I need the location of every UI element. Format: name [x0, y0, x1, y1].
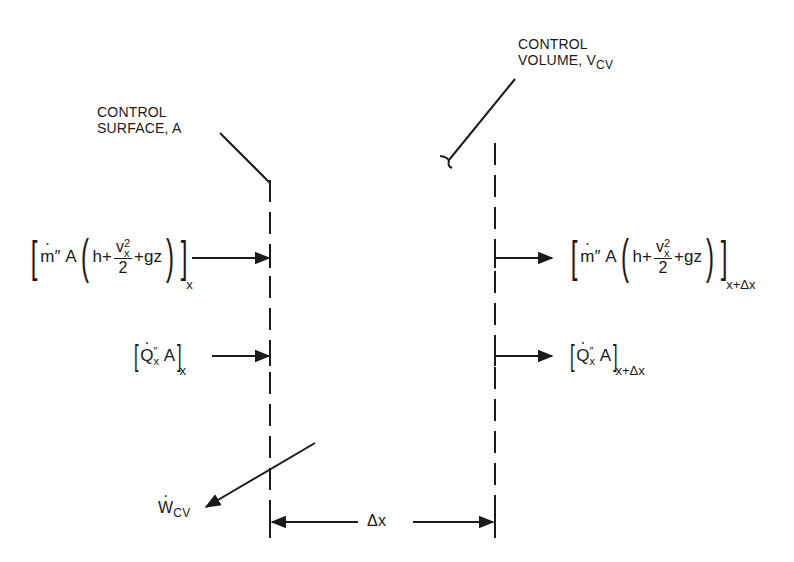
close-bracket: ]: [721, 235, 728, 279]
open-paren: (: [81, 233, 89, 281]
control-volume-line2: VOLUME, VCV: [518, 52, 613, 73]
open-bracket: [: [134, 341, 139, 371]
work-arrow: [206, 443, 315, 507]
heat-flux-symbol: Q: [140, 346, 153, 366]
kinetic-numerator: v2x: [654, 238, 672, 259]
work-label: WCV: [158, 500, 190, 521]
heat-flux-out: [ Q″x A ] x+Δx: [568, 338, 645, 374]
area-symbol: A: [600, 346, 611, 366]
velocity-symbol: v: [656, 238, 664, 255]
heat-sub: x: [590, 356, 596, 366]
control-volume-subscript: CV: [596, 58, 613, 72]
heat-flux-symbol: Q: [576, 346, 589, 366]
open-paren: (: [621, 233, 629, 281]
open-bracket: [: [31, 235, 38, 279]
control-surface-line2: SURFACE, A: [97, 120, 181, 136]
location-subscript: x+Δx: [616, 363, 645, 378]
area-symbol: A: [164, 346, 175, 366]
kinetic-numerator: v2x: [114, 238, 132, 259]
area-symbol: A: [605, 247, 616, 267]
close-bracket: ]: [177, 341, 182, 371]
delta-x-label: Δx: [367, 513, 386, 529]
control-surface-leader: [220, 133, 270, 183]
control-volume-text: VOLUME, V: [518, 52, 596, 68]
control-surface-line1: CONTROL: [97, 104, 181, 120]
double-prime: ″: [54, 247, 60, 267]
heat-sub: x: [154, 356, 160, 366]
control-volume-line1: CONTROL: [518, 36, 613, 52]
velocity-symbol: v: [116, 238, 124, 255]
enthalpy-term: h+: [633, 247, 652, 267]
close-bracket: ]: [613, 341, 618, 371]
kinetic-denominator: 2: [659, 259, 668, 276]
velocity-sub: x: [664, 248, 670, 258]
mass-flux-symbol: m: [40, 247, 54, 267]
kinetic-fraction: v2x 2: [114, 238, 132, 276]
potential-term: +gz: [674, 247, 702, 267]
control-volume-leader: [449, 79, 515, 160]
location-subscript: x+Δx: [726, 277, 755, 292]
enthalpy-flux-out: [ m″ A ( h+ v2x 2 +gz ) ] x+Δx: [568, 226, 755, 288]
kinetic-fraction: v2x 2: [654, 238, 672, 276]
area-symbol: A: [65, 247, 76, 267]
open-bracket: [: [571, 235, 578, 279]
work-subscript: CV: [173, 506, 190, 520]
heat-flux-in: [ Q″x A ] x: [132, 338, 186, 374]
mass-flux-symbol: m: [580, 247, 594, 267]
enthalpy-term: h+: [93, 247, 112, 267]
control-surface-label: CONTROL SURFACE, A: [97, 104, 181, 136]
work-symbol: W: [158, 500, 173, 516]
close-paren: ): [706, 233, 714, 281]
double-prime: ″: [594, 247, 600, 267]
control-volume-label: CONTROL VOLUME, VCV: [518, 36, 613, 73]
enthalpy-flux-in: [ m″ A ( h+ v2x 2 +gz ) ] x: [28, 226, 193, 288]
velocity-sub: x: [124, 248, 130, 258]
potential-term: +gz: [134, 247, 162, 267]
close-bracket: ]: [181, 235, 188, 279]
open-bracket: [: [570, 341, 575, 371]
close-paren: ): [166, 233, 174, 281]
kinetic-denominator: 2: [119, 259, 128, 276]
